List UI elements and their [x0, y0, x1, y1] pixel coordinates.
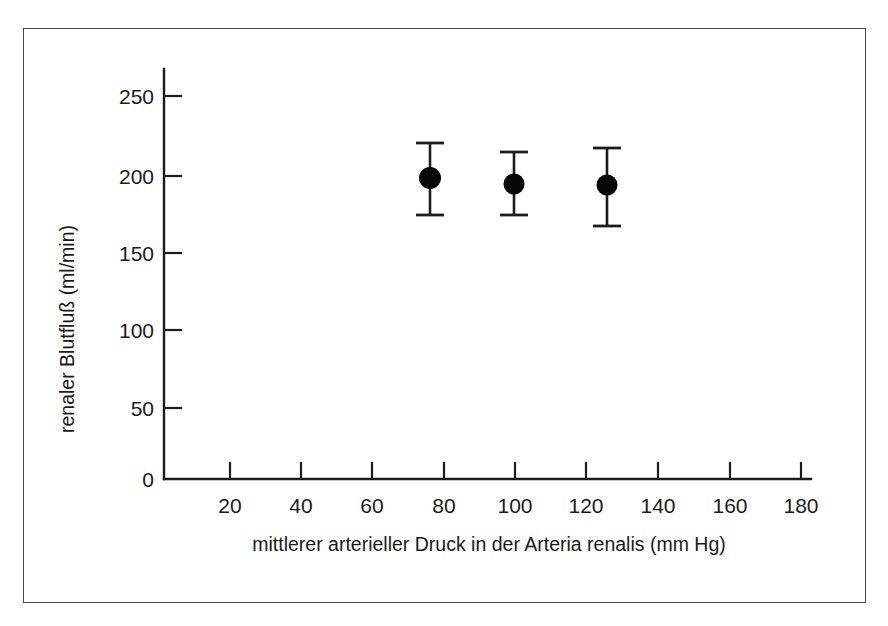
x-tick-marks [230, 462, 801, 479]
data-point-group-3[interactable] [593, 148, 621, 226]
data-marker-1[interactable] [419, 167, 441, 189]
y-tick-label-250: 250 [119, 85, 154, 108]
x-tick-label-140: 140 [640, 494, 675, 517]
x-axis-title: mittlerer arterieller Druck in der Arter… [252, 533, 726, 555]
figure-frame: 250 200 150 100 50 0 [23, 28, 866, 603]
y-axis-title: renaler Blutfluß (ml/min) [56, 225, 78, 433]
y-tick-label-100: 100 [119, 319, 154, 342]
y-tick-label-150: 150 [119, 242, 154, 265]
x-tick-label-60: 60 [360, 494, 383, 517]
data-point-group-2[interactable] [500, 152, 528, 215]
x-tick-label-160: 160 [712, 494, 747, 517]
y-tick-label-50: 50 [131, 397, 154, 420]
figure-caption [0, 612, 888, 626]
data-marker-2[interactable] [504, 174, 525, 195]
y-tick-marks [164, 96, 182, 408]
x-tick-label-180: 180 [783, 494, 818, 517]
data-series-renal-blood-flow [416, 143, 621, 226]
figure-root: 250 200 150 100 50 0 [0, 0, 888, 626]
data-marker-3[interactable] [597, 175, 618, 196]
x-tick-label-20: 20 [218, 494, 241, 517]
data-point-group-1[interactable] [416, 143, 444, 215]
x-tick-label-40: 40 [289, 494, 312, 517]
y-tick-labels: 250 200 150 100 50 0 [119, 85, 154, 491]
chart-svg: 250 200 150 100 50 0 [24, 29, 867, 604]
plot-area: 250 200 150 100 50 0 [24, 29, 867, 604]
x-tick-label-80: 80 [432, 494, 455, 517]
y-tick-label-0: 0 [142, 468, 154, 491]
x-tick-label-100: 100 [497, 494, 532, 517]
x-tick-labels: 20 40 60 80 100 120 140 160 180 [218, 494, 818, 517]
y-tick-label-200: 200 [119, 165, 154, 188]
x-tick-label-120: 120 [568, 494, 603, 517]
